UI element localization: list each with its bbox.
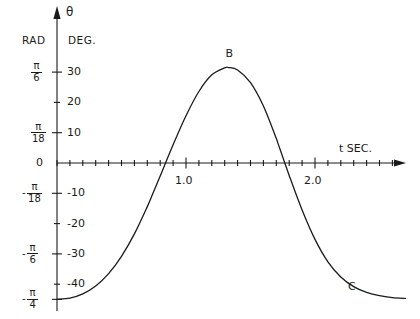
plot-canvas (0, 0, 420, 319)
deg-tick-label: 0 (36, 157, 43, 168)
t-axis-label: t SEC. (339, 143, 372, 154)
theta-curve (57, 67, 405, 299)
deg-tick-label: -10 (67, 187, 85, 198)
rad-tick-label: π6 (31, 61, 42, 83)
rad-fraction: π4 (27, 288, 38, 310)
figure-root: θ RAD DEG. t SEC. 3020100-10-20-30-40 π6… (0, 0, 420, 319)
rad-fraction: π6 (27, 243, 38, 265)
rad-sign: - (22, 294, 26, 304)
deg-tick-label: 10 (67, 127, 81, 138)
rad-fraction: π18 (27, 182, 42, 204)
rad-fraction: π18 (31, 122, 46, 144)
rad-sign: - (22, 188, 26, 198)
theta-axis-label: θ (66, 6, 73, 18)
point-label-b: B (226, 48, 234, 59)
rad-sign: - (22, 249, 26, 259)
rad-numerator: π (29, 288, 37, 299)
rad-tick-label: -π4 (22, 288, 38, 310)
theta-axis-arrowhead (53, 6, 60, 19)
rad-numerator: π (30, 182, 38, 193)
point-label-c: C (348, 281, 356, 292)
deg-tick-label: -20 (67, 218, 85, 229)
deg-tick-label: 20 (67, 96, 81, 107)
deg-tick-label: -30 (67, 248, 85, 259)
rad-tick-label: -π6 (22, 243, 38, 265)
t-tick-label: 1.0 (175, 175, 193, 186)
t-axis-arrowhead (394, 159, 406, 166)
t-tick-label: 2.0 (304, 175, 322, 186)
rad-tick-label: π18 (31, 122, 46, 144)
deg-tick-label: -40 (67, 278, 85, 289)
deg-column-header: DEG. (68, 35, 96, 46)
rad-column-header: RAD (22, 35, 46, 46)
rad-denominator: 4 (28, 300, 36, 311)
rad-numerator: π (29, 243, 37, 254)
rad-numerator: π (32, 61, 40, 72)
rad-fraction: π6 (31, 61, 42, 83)
tick-layer (52, 72, 392, 299)
deg-tick-label: 30 (67, 66, 81, 77)
rad-denominator: 18 (27, 194, 42, 205)
curve-layer (57, 67, 405, 299)
rad-numerator: π (34, 122, 42, 133)
rad-denominator: 6 (32, 73, 40, 84)
rad-denominator: 18 (31, 133, 46, 144)
rad-denominator: 6 (28, 254, 36, 265)
rad-tick-label: -π18 (22, 182, 42, 204)
